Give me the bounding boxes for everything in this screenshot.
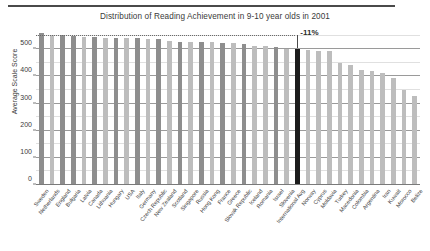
y-axis-label: Average Scale Score <box>11 22 18 142</box>
bar <box>114 38 119 185</box>
bar <box>316 51 321 185</box>
bar <box>178 42 183 185</box>
y-axis-tick-label: 100 <box>20 147 32 154</box>
bar <box>412 96 417 185</box>
bar <box>210 42 215 185</box>
bar <box>156 39 161 185</box>
y-axis-tick-label: 500 <box>20 39 32 46</box>
bar <box>188 42 193 185</box>
y-axis-tick-label: 200 <box>20 120 32 127</box>
y-axis-tick-label: 300 <box>20 93 32 100</box>
bar <box>242 44 247 185</box>
y-axis-tick-mark <box>33 156 36 157</box>
bar <box>252 46 257 185</box>
bar <box>402 90 407 185</box>
bar <box>295 49 300 185</box>
bar <box>82 37 87 185</box>
bar <box>71 36 76 185</box>
y-axis-tick-mark <box>33 75 36 76</box>
bar <box>274 47 279 185</box>
bar <box>348 65 353 185</box>
y-axis-tick-mark <box>33 129 36 130</box>
bar <box>92 37 97 185</box>
bar <box>124 38 129 185</box>
annotation-drop-marker <box>297 35 298 48</box>
bar <box>199 42 204 185</box>
bar <box>359 70 364 185</box>
bar <box>327 51 332 185</box>
y-axis-tick-label: 400 <box>20 66 32 73</box>
chart-title: Distribution of Reading Achievement in 9… <box>0 12 430 21</box>
header-divider <box>8 5 395 7</box>
bar <box>39 33 44 185</box>
bar <box>338 63 343 185</box>
bar <box>220 43 225 186</box>
annotation-leader-line <box>36 35 295 36</box>
plot-canvas: 0100200300400500 -11% <box>36 33 420 185</box>
bar <box>103 38 108 185</box>
bar <box>167 41 172 185</box>
x-axis-labels: SwedenNetherlandsEnglandBulgariaLatviaCa… <box>36 188 426 250</box>
bar <box>306 50 311 185</box>
x-axis-tick-label: USA <box>124 188 136 201</box>
bar <box>135 38 140 185</box>
bar <box>380 73 385 185</box>
bar <box>263 46 268 185</box>
bar <box>146 39 151 185</box>
y-axis-tick-mark <box>33 48 36 49</box>
y-axis-tick-label: 0 <box>28 175 32 182</box>
y-axis-tick-mark <box>33 102 36 103</box>
bar <box>50 35 55 185</box>
bar <box>284 49 289 185</box>
bar <box>391 78 396 185</box>
bar <box>370 71 375 185</box>
annotation-label: -11% <box>300 28 318 37</box>
chart-area: Average Scale Score 0100200300400500 -11… <box>0 30 430 251</box>
bar <box>231 43 236 185</box>
x-axis-line <box>36 184 420 185</box>
bar <box>60 35 65 185</box>
